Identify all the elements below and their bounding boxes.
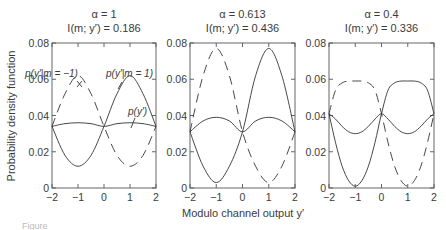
- y-tick-label: 0: [181, 182, 187, 194]
- chart-figure: Probability density function Modulo chan…: [0, 0, 446, 230]
- series-line-p-y-m-1-: [52, 76, 156, 167]
- x-tick-label: −1: [72, 191, 84, 203]
- y-axis-label: Probability density function: [5, 51, 17, 182]
- x-tick-label: −1: [349, 191, 361, 203]
- y-tick-label: 0.04: [167, 110, 188, 122]
- panel-title-mutual-information: I(m; y′) = 0.336: [345, 22, 418, 34]
- panel-3: α = 0.4I(m; y′) = 0.336−2−101200.020.040…: [306, 8, 438, 203]
- y-tick-label: 0.02: [29, 146, 50, 158]
- figure-caption: Figure: [22, 221, 48, 230]
- y-tick-label: 0.08: [29, 37, 50, 49]
- y-tick-label: 0.08: [167, 37, 188, 49]
- series-line-p-y-: [190, 117, 295, 132]
- curve-annotation: p(y′|m = 1): [105, 68, 153, 79]
- panel-1: α = 1I(m; y′) = 0.186−2−101200.020.040.0…: [24, 8, 159, 203]
- y-tick-label: 0: [320, 182, 326, 194]
- x-tick-label: −1: [210, 191, 222, 203]
- y-tick-label: 0.04: [29, 110, 50, 122]
- y-tick-label: 0.04: [306, 110, 327, 122]
- x-axis-label: Modulo channel output y′: [182, 207, 304, 219]
- y-tick-label: 0.02: [306, 146, 327, 158]
- x-tick-label: 2: [431, 191, 437, 203]
- y-tick-label: 0.06: [306, 73, 327, 85]
- x-tick-label: 1: [127, 191, 133, 203]
- panel-title-alpha: α = 0.4: [364, 8, 398, 20]
- series-line-p-y-: [329, 114, 434, 134]
- y-tick-label: 0: [43, 182, 49, 194]
- annotation-leader: [77, 81, 82, 87]
- x-tick-label: 0: [379, 191, 385, 203]
- y-tick-label: 0.06: [167, 73, 188, 85]
- x-tick-label: 0: [101, 191, 107, 203]
- panel-2: α = 0.613I(m; y′) = 0.436−2−101200.020.0…: [167, 8, 299, 203]
- series-line-p-y-m-1-: [329, 81, 434, 186]
- x-tick-label: 0: [240, 191, 246, 203]
- panel-title-mutual-information: I(m; y′) = 0.436: [206, 22, 279, 34]
- y-tick-label: 0.02: [167, 146, 188, 158]
- panel-title-alpha: α = 1: [91, 8, 116, 20]
- panel-title-mutual-information: I(m; y′) = 0.186: [67, 22, 140, 34]
- x-tick-label: 2: [153, 191, 159, 203]
- series-line-p-y-m-1-: [329, 81, 434, 186]
- axes-frame: [190, 43, 295, 188]
- panel-title-alpha: α = 0.613: [219, 8, 265, 20]
- x-tick-label: 2: [292, 191, 298, 203]
- curve-annotation: p(y′): [127, 106, 147, 117]
- x-tick-label: 1: [266, 191, 272, 203]
- x-tick-label: 1: [405, 191, 411, 203]
- curve-annotation: p(y′|m = −1): [24, 68, 78, 79]
- y-tick-label: 0.08: [306, 37, 327, 49]
